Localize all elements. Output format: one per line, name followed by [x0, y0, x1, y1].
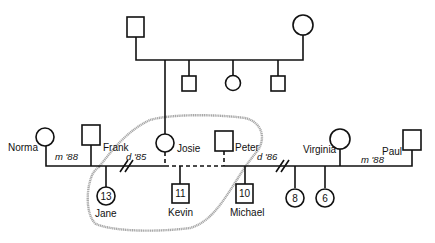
peter-square [215, 131, 233, 151]
frank-square [82, 125, 100, 145]
grandmother-circle [293, 15, 313, 35]
jane-label: Jane [95, 208, 117, 219]
virginia-label: Virginia [303, 144, 337, 155]
paul-label: Paul [382, 146, 402, 157]
jane-age: 13 [100, 191, 112, 202]
daughter6-age: 6 [322, 193, 328, 204]
peter-label: Peter [235, 142, 260, 153]
paul-square [403, 130, 421, 150]
kevin-label: Kevin [168, 207, 193, 218]
norma-circle [36, 128, 54, 146]
daughter8-age: 8 [292, 193, 298, 204]
grandparents-marriage-line [136, 35, 303, 60]
genogram-diagram: 13 11 10 8 6 Norma Frank Josie Peter Vir… [0, 0, 435, 243]
virginia-paul-marriage-label: m '88 [361, 154, 385, 165]
sibling-circle [226, 76, 241, 91]
josie-circle [156, 134, 174, 152]
grandfather-square [127, 17, 144, 37]
peter-virginia-divorce-label: d '86 [257, 151, 278, 162]
kevin-age: 11 [175, 188, 186, 199]
michael-label: Michael [230, 207, 264, 218]
josie-label: Josie [177, 143, 201, 154]
sibling-square-1 [182, 76, 196, 91]
sibling-square-2 [271, 76, 285, 91]
frank-josie-divorce-label: d '85 [126, 151, 147, 162]
michael-age: 10 [239, 188, 251, 199]
norma-label: Norma [8, 142, 38, 153]
norma-frank-marriage-label: m '88 [55, 151, 79, 162]
